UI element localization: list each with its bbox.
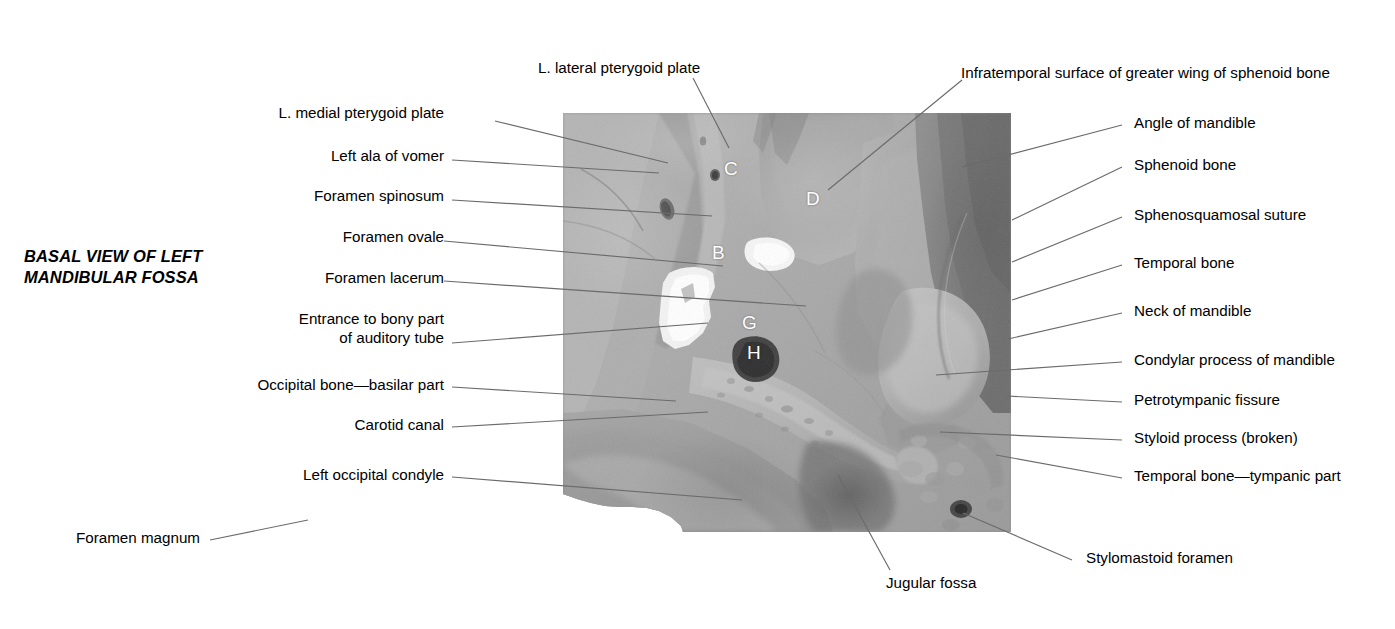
- leader-temporal-bone: [1012, 265, 1122, 300]
- label-angle-of-mandible: Angle of mandible: [1134, 113, 1256, 132]
- label-foramen-magnum: Foramen magnum: [0, 528, 200, 547]
- label-condylar-process-of-mandible: Condylar process of mandible: [1134, 350, 1335, 369]
- label-jugular-fossa: Jugular fossa: [886, 573, 976, 592]
- label-occipital-bone-basilar-part: Occipital bone—basilar part: [84, 375, 444, 394]
- leader-foramen-magnum: [210, 520, 308, 540]
- label-sphenosquamosal-suture: Sphenosquamosal suture: [1134, 205, 1306, 224]
- label-temporal-bone: Temporal bone: [1134, 253, 1234, 272]
- plate-title-line-1: BASAL VIEW OF LEFT: [24, 246, 254, 267]
- label-carotid-canal: Carotid canal: [84, 415, 444, 434]
- label-l-lateral-pterygoid-plate: L. lateral pterygoid plate: [538, 58, 700, 77]
- label-stylomastoid-foramen: Stylomastoid foramen: [1086, 548, 1233, 567]
- leader-neck-of-mandible: [1008, 313, 1122, 339]
- label-infratemporal-surface: Infratemporal surface of greater wing of…: [961, 63, 1330, 82]
- label-left-occipital-condyle: Left occipital condyle: [84, 465, 444, 484]
- label-left-ala-of-vomer: Left ala of vomer: [84, 146, 444, 165]
- label-foramen-ovale: Foramen ovale: [84, 227, 444, 246]
- label-neck-of-mandible: Neck of mandible: [1134, 301, 1251, 320]
- label-l-medial-pterygoid-plate: L. medial pterygoid plate: [84, 103, 444, 122]
- leader-sphenoid-bone: [1012, 167, 1122, 220]
- label-foramen-spinosum: Foramen spinosum: [84, 186, 444, 205]
- label-entrance-line-2: of auditory tube: [84, 328, 444, 347]
- leader-sphenosquamosal-suture: [1012, 217, 1122, 262]
- label-styloid-process-broken: Styloid process (broken): [1134, 428, 1298, 447]
- skull-base-photograph: C D B G H: [563, 113, 1011, 532]
- leader-petrotympanic-fissure: [1007, 396, 1122, 402]
- label-entrance-line-1: Entrance to bony part: [84, 309, 444, 328]
- label-temporal-bone-tympanic-part: Temporal bone—tympanic part: [1134, 466, 1341, 485]
- label-sphenoid-bone: Sphenoid bone: [1134, 155, 1236, 174]
- label-entrance-to-auditory-tube: Entrance to bony part of auditory tube: [84, 309, 444, 347]
- label-petrotympanic-fissure: Petrotympanic fissure: [1134, 390, 1280, 409]
- anatomical-figure: C D B G H BASAL VIEW O: [0, 0, 1395, 629]
- label-foramen-lacerum: Foramen lacerum: [84, 268, 444, 287]
- leader-temporal-bone-tympanic: [996, 455, 1122, 478]
- photograph-image: [563, 113, 1011, 532]
